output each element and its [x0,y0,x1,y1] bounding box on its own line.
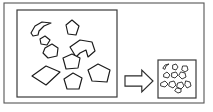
process-arrow-icon [125,70,153,92]
figure-root [0,0,213,112]
small-particle-9 [182,66,188,72]
pentagon-particle-center [63,54,80,69]
size-reduction-diagram [0,0,213,112]
